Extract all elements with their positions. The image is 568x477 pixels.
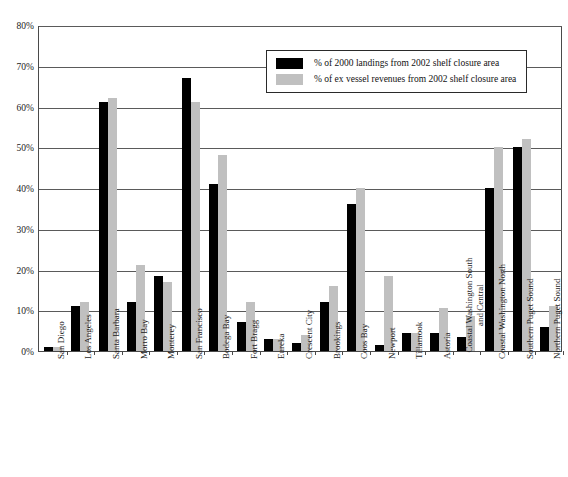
y-tick-label: 30%: [17, 225, 34, 235]
x-tickmark: [563, 351, 564, 355]
y-tick-label: 60%: [17, 103, 34, 113]
bar-landings: [237, 322, 246, 351]
bar-revenues: [356, 188, 365, 351]
x-tickmark: [398, 351, 399, 355]
y-tick-label: 40%: [17, 184, 34, 194]
x-tickmark: [315, 351, 316, 355]
bar-group: [204, 26, 232, 351]
legend-swatch-gray-icon: [276, 74, 303, 85]
bar-landings: [71, 306, 80, 351]
bar-revenues: [494, 147, 503, 351]
bar-landings: [209, 184, 218, 351]
x-tickmark: [67, 351, 68, 355]
x-tickmark: [177, 351, 178, 355]
bar-group: [122, 26, 150, 351]
bar-revenues: [301, 335, 310, 351]
bar-revenues: [163, 282, 172, 351]
x-tickmark: [480, 351, 481, 355]
bar-revenues: [80, 302, 89, 351]
x-tickmark: [260, 351, 261, 355]
x-tickmark: [122, 351, 123, 355]
x-tickmark: [204, 351, 205, 355]
bar-revenues: [191, 102, 200, 351]
bar-revenues: [218, 155, 227, 351]
bar-landings: [540, 327, 549, 351]
bar-landings: [402, 333, 411, 351]
bar-revenues: [522, 139, 531, 351]
bar-landings: [513, 147, 522, 351]
legend-entry-landings: % of 2000 landings from 2002 shelf closu…: [276, 58, 516, 69]
y-tick-label: 80%: [17, 21, 34, 31]
y-axis: 0%10%20%30%40%50%60%70%80%: [0, 0, 38, 477]
bar-landings: [320, 302, 329, 351]
y-tick-label: 70%: [17, 62, 34, 72]
x-tickmark: [94, 351, 95, 355]
bar-group: [94, 26, 122, 351]
bar-landings: [375, 345, 384, 351]
bar-revenues: [411, 333, 420, 351]
legend-swatch-black-icon: [276, 58, 303, 69]
bar-revenues: [273, 339, 282, 351]
bar-revenues: [53, 347, 62, 351]
bar-landings: [292, 343, 301, 351]
y-tick-label: 20%: [17, 266, 34, 276]
bar-revenues: [108, 98, 117, 351]
bar-landings: [44, 347, 53, 351]
y-tick-label: 10%: [17, 306, 34, 316]
x-tickmark: [287, 351, 288, 355]
x-tickmark: [149, 351, 150, 355]
chart-legend: % of 2000 landings from 2002 shelf closu…: [266, 50, 527, 93]
bar-group: [39, 26, 67, 351]
x-tickmark: [425, 351, 426, 355]
bar-group: [177, 26, 205, 351]
bar-group: [149, 26, 177, 351]
bar-group: [232, 26, 260, 351]
bar-group: [67, 26, 95, 351]
x-tickmark: [508, 351, 509, 355]
bar-chart: 0%10%20%30%40%50%60%70%80% San DiegoLos …: [0, 0, 568, 477]
bar-group: [535, 26, 563, 351]
bar-landings: [264, 339, 273, 351]
legend-label-revenues: % of ex vessel revenues from 2002 shelf …: [314, 74, 516, 85]
bar-landings: [457, 337, 466, 351]
bar-landings: [347, 204, 356, 351]
x-tickmark: [453, 351, 454, 355]
legend-entry-revenues: % of ex vessel revenues from 2002 shelf …: [276, 74, 516, 85]
bar-revenues: [384, 276, 393, 351]
y-tick-label: 0%: [21, 347, 34, 357]
bar-landings: [430, 333, 439, 351]
bar-revenues: [549, 306, 558, 351]
legend-label-landings: % of 2000 landings from 2002 shelf closu…: [314, 58, 499, 69]
x-tickmark: [370, 351, 371, 355]
bar-landings: [99, 102, 108, 351]
bar-landings: [154, 276, 163, 351]
bar-landings: [127, 302, 136, 351]
x-tickmark: [342, 351, 343, 355]
bar-revenues: [246, 302, 255, 351]
x-tickmark: [535, 351, 536, 355]
bar-revenues: [136, 265, 145, 351]
bar-revenues: [466, 316, 475, 351]
bar-landings: [182, 78, 191, 351]
bar-landings: [485, 188, 494, 351]
bar-revenues: [329, 286, 338, 351]
bar-revenues: [439, 308, 448, 351]
y-tick-label: 50%: [17, 143, 34, 153]
x-tickmark: [232, 351, 233, 355]
